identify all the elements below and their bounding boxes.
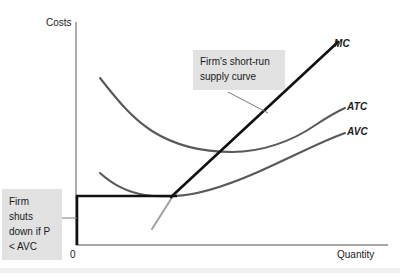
x-axis-label: Quantity <box>337 249 374 262</box>
mc-curve-lower-tail <box>152 196 173 229</box>
origin-label: 0 <box>70 249 76 262</box>
mc-curve-label: MC <box>334 38 350 51</box>
page-edge-artifact <box>0 268 400 273</box>
atc-curve-label: ATC <box>347 101 367 114</box>
shutdown-callout: Firm shuts down if P < AVC <box>2 189 62 260</box>
y-axis-label: Costs <box>46 17 72 30</box>
cost-curves-figure: Costs Quantity 0 MC ATC AVC Firm's short… <box>0 0 400 277</box>
avc-curve <box>100 133 345 196</box>
supply-curve-callout: Firm's short-run supply curve <box>193 50 285 90</box>
avc-curve-label: AVC <box>347 126 368 139</box>
supply-callout-leader-line <box>228 92 268 113</box>
